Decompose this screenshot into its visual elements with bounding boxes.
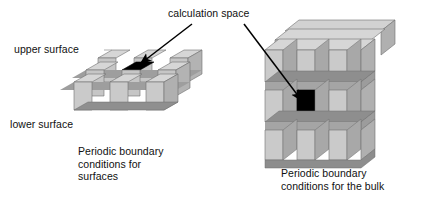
left-slab-structure	[60, 50, 202, 110]
caption-line: conditions for the bulk	[281, 180, 384, 193]
caption-line: conditions for	[78, 158, 164, 171]
right-bulk-cube-structure	[265, 20, 395, 168]
bulk-block-bot-1	[297, 130, 315, 160]
bulk-block-bot-2	[329, 130, 347, 160]
left-panel-caption: Periodic boundary conditions for surface…	[78, 145, 164, 183]
caption-line: Periodic boundary	[281, 167, 384, 180]
upper-surface-label: upper surface	[14, 44, 79, 56]
calculation-space-label: calculation space	[168, 8, 249, 20]
bulk-block-bot-0	[265, 130, 283, 160]
caption-line: Periodic boundary	[78, 145, 164, 158]
lower-surface-label: lower surface	[10, 119, 73, 131]
slab-lower-surface	[74, 102, 178, 110]
caption-line: surfaces	[78, 170, 164, 183]
right-panel-caption: Periodic boundary conditions for the bul…	[281, 167, 384, 192]
